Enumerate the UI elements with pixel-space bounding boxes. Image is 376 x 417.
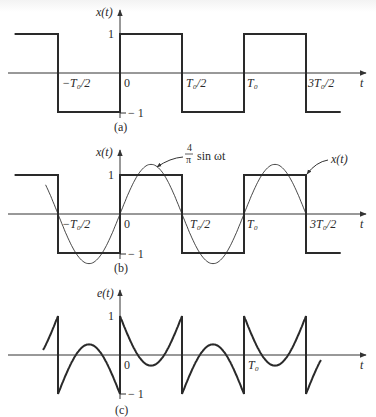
- caption-c: (c): [115, 403, 128, 417]
- level-low-label-a: − 1: [128, 106, 144, 120]
- tick-neg-half-a: −T₀/2: [62, 76, 90, 90]
- square-wave-fourier-figure: x(t) 1 − 1 −T₀/2 0 T₀/2 T₀ 3T₀/2 t (a) x…: [0, 0, 376, 417]
- tick-zero-b: 0: [124, 217, 130, 231]
- annotation-sine-denominator: π: [186, 154, 191, 165]
- tick-t0-a: T₀: [247, 76, 258, 90]
- level-low-label-c: − 1: [128, 387, 144, 401]
- panel-c: e(t) 1 − 1 0 T₀ t (c): [8, 286, 366, 417]
- level-high-label-b: 1: [108, 168, 114, 182]
- y-axis-label-b: x(t): [95, 145, 113, 159]
- level-low-label-b: − 1: [128, 247, 144, 261]
- level-high-label-c: 1: [108, 309, 114, 323]
- panel-b: x(t) 1 − 1 −T₀/2 0 T₀/2 T₀ 3T₀/2 t 4 π s…: [8, 142, 366, 275]
- x-axis-label-b: t: [360, 217, 364, 231]
- annotation-sine-numerator: 4: [187, 142, 192, 153]
- tick-t0-b: T₀: [247, 217, 258, 231]
- caption-b: (b): [114, 261, 128, 275]
- annotation-sine-arrow: [157, 157, 183, 167]
- tick-t0-c: T₀: [248, 358, 259, 372]
- tick-half-a: T₀/2: [186, 76, 206, 90]
- x-axis-label-a: t: [360, 76, 364, 90]
- x-axis-label-c: t: [360, 358, 364, 372]
- tick-zero-a: 0: [124, 76, 130, 90]
- tick-neg-half-b: −T₀/2: [62, 217, 90, 231]
- level-high-label-a: 1: [108, 27, 114, 41]
- tick-three-half-a: 3T₀/2: [307, 76, 334, 90]
- annotation-sine-text: sin ωt: [197, 149, 226, 163]
- y-axis-label-c: e(t): [97, 286, 114, 300]
- tick-zero-c: 0: [124, 358, 130, 372]
- annotation-square-label: x(t): [330, 152, 348, 166]
- tick-three-half-b: 3T₀/2: [309, 217, 336, 231]
- caption-a: (a): [114, 120, 127, 134]
- annotation-square-arrow: [307, 160, 328, 174]
- tick-half-b: T₀/2: [190, 217, 210, 231]
- panel-a: x(t) 1 − 1 −T₀/2 0 T₀/2 T₀ 3T₀/2 t (a): [8, 5, 366, 134]
- y-axis-label-a: x(t): [95, 5, 113, 19]
